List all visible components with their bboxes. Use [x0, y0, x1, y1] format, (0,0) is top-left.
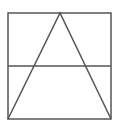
geometry-diagram	[0, 0, 117, 125]
